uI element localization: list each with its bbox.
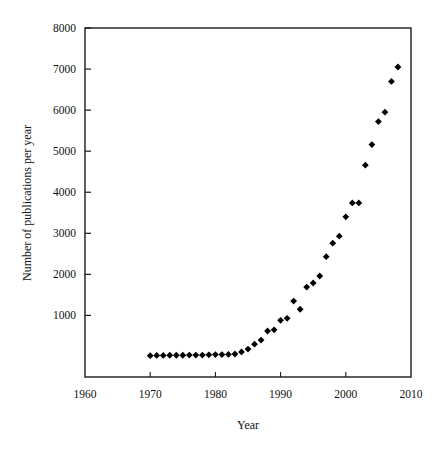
x-axis-title: Year (237, 418, 259, 432)
y-tick-label: 2000 (53, 268, 76, 280)
y-tick-label: 7000 (53, 63, 76, 75)
y-tick-label: 4000 (53, 186, 76, 198)
y-tick-label: 1000 (53, 309, 76, 321)
x-tick-label: 1990 (269, 388, 292, 400)
y-tick-label: 8000 (53, 22, 76, 34)
publication-trend-figure: 10002000300040005000600070008000 1960197… (0, 0, 444, 450)
x-tick-label: 1980 (204, 388, 227, 400)
x-tick-label: 2000 (334, 388, 357, 400)
x-tick-label: 2010 (400, 388, 423, 400)
y-tick-label: 6000 (53, 104, 76, 116)
y-tick-label: 5000 (53, 145, 76, 157)
y-axis-title: Number of publications per year (20, 125, 34, 281)
x-tick-label: 1970 (139, 388, 162, 400)
y-tick-label: 3000 (53, 227, 76, 239)
x-tick-label: 1960 (74, 388, 97, 400)
scatter-plot: 10002000300040005000600070008000 1960197… (0, 0, 444, 450)
